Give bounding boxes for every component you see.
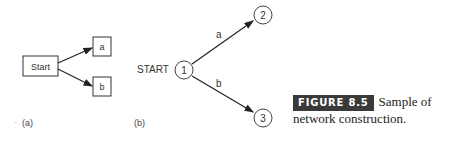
diagram-b-label: (b) (134, 118, 145, 128)
edge-1-2-label: a (216, 29, 222, 40)
edge-start-a (58, 48, 92, 63)
diagram-a-label: (a) (22, 118, 33, 128)
start-box-label: Start (31, 62, 51, 72)
node-3-label: 3 (260, 113, 266, 124)
diagram-b: START 1 2 3 a b (b) (134, 6, 272, 128)
edge-start-b (58, 69, 92, 86)
bullet-dot: • (15, 120, 17, 125)
edge-1-3 (192, 76, 253, 112)
edge-1-3-label: b (216, 78, 222, 89)
node-a-label: a (99, 42, 104, 52)
diagram-a: Start a b • (a) (15, 37, 111, 128)
node-1-label: 1 (181, 65, 187, 76)
start-label: START (137, 64, 169, 75)
figure-caption: FIGURE 8.5Sample of network construction… (293, 94, 468, 127)
node-b-label: b (99, 82, 104, 92)
figure-label: FIGURE 8.5 (293, 95, 374, 111)
node-2-label: 2 (260, 10, 266, 21)
edge-1-2 (192, 21, 253, 64)
